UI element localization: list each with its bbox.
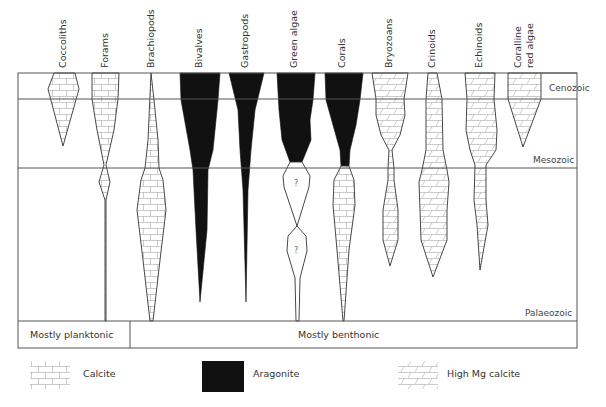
mode-labels: Mostly planktonic Mostly benthonic (30, 329, 379, 340)
mineralogy-diagram: Coccoliths Forams Brachiopods Bivalves G… (0, 0, 606, 407)
range-crinoids (419, 73, 449, 277)
range-bivalves (180, 73, 220, 302)
range-bryozoans (372, 73, 408, 266)
range-coccoliths (48, 73, 79, 146)
label-brachiopods: Brachiopods (145, 9, 156, 68)
label-bryozoans: Bryozoans (383, 19, 394, 68)
era-palaeozoic: Palaeozoic (525, 308, 572, 318)
legend-aragonite-label: Aragonite (253, 368, 299, 379)
label-forams: Forams (99, 33, 110, 68)
range-forams (92, 73, 119, 321)
range-gastropods (229, 73, 264, 302)
range-brachiopods (137, 73, 166, 321)
calcite-swatch (30, 361, 70, 389)
range-green-algae-uncertain-lower (287, 226, 307, 321)
high-mg-swatch (398, 361, 438, 389)
label-coralline-red-algae-2: red algae (524, 23, 535, 68)
era-labels: Cenozoic Mesozoic Palaeozoic (525, 83, 590, 318)
label-echinoids: Echinoids (473, 23, 484, 68)
legend-high-mg-calcite: High Mg calcite (398, 361, 520, 389)
range-echinoids (465, 73, 497, 270)
range-coralline-red-algae (508, 73, 541, 147)
legend-high-mg-label: High Mg calcite (447, 368, 520, 379)
range-green-algae-uncertain-upper (283, 162, 310, 226)
era-mesozoic: Mesozoic (533, 155, 574, 165)
legend-calcite-label: Calcite (83, 368, 116, 379)
aragonite-swatch (202, 361, 244, 392)
label-crinoids: Crinoids (426, 29, 437, 68)
label-coralline-red-algae-1: Coralline (512, 26, 523, 68)
mode-benthonic: Mostly benthonic (298, 329, 379, 340)
legend: Calcite Aragonite High Mg calcite (30, 361, 520, 392)
taxon-labels: Coccoliths Forams Brachiopods Bivalves G… (57, 9, 535, 68)
unknown-marker-2: ? (294, 246, 298, 255)
range-corals-aragonite (325, 73, 363, 166)
label-bivalves: Bivalves (193, 28, 204, 68)
label-green-algae: Green algae (288, 10, 299, 68)
range-green-algae-aragonite (277, 73, 315, 162)
range-corals-calcite (333, 166, 355, 321)
label-corals: Corals (336, 38, 347, 68)
legend-calcite: Calcite (30, 361, 116, 389)
mode-planktonic: Mostly planktonic (30, 329, 113, 340)
era-cenozoic: Cenozoic (549, 83, 590, 93)
label-coccoliths: Coccoliths (57, 19, 68, 68)
taxon-ranges: ? ? (48, 73, 541, 321)
unknown-marker-1: ? (294, 179, 298, 188)
legend-aragonite: Aragonite (202, 361, 299, 392)
label-gastropods: Gastropods (239, 14, 250, 68)
